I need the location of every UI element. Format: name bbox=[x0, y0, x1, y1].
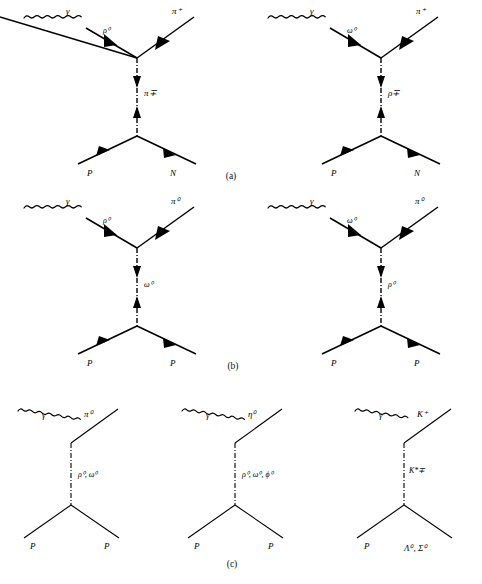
propagator-arrowhead-down bbox=[133, 266, 141, 278]
pion-out-arrowhead bbox=[399, 226, 414, 240]
photon-line bbox=[182, 409, 244, 419]
diagram-a-left: γ ρ⁰ π⁺ π∓ P N bbox=[0, 6, 196, 178]
label-baryon-out: Λ⁰, Σ⁰ bbox=[403, 543, 428, 553]
diagram-c-2: γ η⁰ ρ⁰, ω⁰, ϕ⁰ P P bbox=[182, 409, 283, 551]
label-rho0-vertex: ρ⁰ bbox=[102, 26, 112, 35]
label-exchange: π∓ bbox=[144, 88, 158, 98]
row-caption-c: (c) bbox=[227, 559, 238, 570]
label-rho0-vertex: ρ⁰ bbox=[102, 216, 112, 225]
label-gamma: γ bbox=[66, 6, 70, 16]
row-caption-a: (a) bbox=[226, 171, 237, 182]
propagator-arrowhead-up bbox=[133, 106, 141, 118]
baryon-out-line bbox=[404, 505, 452, 538]
feynman-diagram-figure: γ ρ⁰ π⁺ π∓ P N γ ω⁰ π⁺ ρ∓ P N (a) bbox=[0, 0, 482, 584]
proton-in-line bbox=[188, 505, 235, 538]
proton-in-arrowhead bbox=[96, 336, 110, 346]
label-proton-in: P bbox=[86, 358, 93, 368]
label-exchange: ω⁰ bbox=[144, 280, 155, 289]
label-omega0-vertex: ω⁰ bbox=[347, 26, 358, 35]
label-gamma: γ bbox=[66, 196, 70, 206]
propagator-arrowhead-up bbox=[377, 296, 385, 308]
propagator-arrowhead-up bbox=[377, 106, 385, 118]
label-meson-out: π⁰ bbox=[84, 409, 94, 419]
pion-out-arrowhead bbox=[155, 36, 170, 50]
pion-out-line bbox=[381, 17, 438, 58]
label-proton-in: P bbox=[193, 541, 200, 551]
propagator-arrowhead-down bbox=[133, 76, 141, 88]
pion-out-line bbox=[381, 207, 438, 248]
meson-out-line bbox=[235, 409, 282, 443]
diagram-c-1: γ π⁰ ρ⁰, ω⁰ P P bbox=[18, 409, 119, 551]
proton-out-line bbox=[71, 505, 119, 538]
diagram-a-right: γ ω⁰ π⁺ ρ∓ P N bbox=[268, 6, 440, 178]
rho0-arrowhead bbox=[104, 224, 117, 237]
proton-in-arrowhead bbox=[340, 146, 354, 156]
photon-line bbox=[268, 206, 325, 208]
label-exchange: ρ⁰ bbox=[387, 280, 397, 289]
label-pion-out: π⁰ bbox=[171, 196, 181, 206]
label-proton-in: P bbox=[363, 541, 370, 551]
photon-line bbox=[268, 16, 325, 18]
row-caption-b: (b) bbox=[227, 361, 238, 372]
label-proton-in: P bbox=[330, 168, 337, 178]
label-meson-out: η⁰ bbox=[248, 409, 257, 419]
pion-out-line-2 bbox=[137, 17, 194, 58]
figure-canvas: γ ρ⁰ π⁺ π∓ P N γ ω⁰ π⁺ ρ∓ P N (a) bbox=[0, 0, 482, 584]
label-proton-out: P bbox=[413, 358, 420, 368]
label-nucleon-out: N bbox=[169, 168, 177, 178]
label-proton-in: P bbox=[29, 541, 36, 551]
label-gamma: γ bbox=[42, 410, 46, 420]
photon-line bbox=[24, 206, 81, 208]
label-proton-in: P bbox=[86, 168, 93, 178]
pion-out-arrowhead bbox=[155, 226, 170, 240]
diagram-b-right: γ ω⁰ π⁰ ρ⁰ P P bbox=[268, 196, 440, 368]
label-proton-out: P bbox=[267, 541, 274, 551]
label-proton-out: P bbox=[169, 358, 176, 368]
label-meson-out: K⁺ bbox=[416, 409, 429, 419]
label-proton-out: P bbox=[103, 541, 110, 551]
proton-in-arrowhead bbox=[96, 146, 110, 156]
diagram-b-left: γ ρ⁰ π⁰ ω⁰ P P bbox=[24, 196, 196, 368]
label-gamma: γ bbox=[310, 6, 314, 16]
propagator-arrowhead-down bbox=[377, 266, 385, 278]
proton-in-arrowhead bbox=[340, 336, 354, 346]
label-proton-in: P bbox=[330, 358, 337, 368]
label-pion-out: π⁺ bbox=[172, 6, 183, 16]
propagator-arrowhead-down bbox=[377, 76, 385, 88]
pion-out-arrowhead bbox=[399, 36, 414, 50]
label-exchange: K*∓ bbox=[408, 466, 426, 475]
label-exchange: ρ∓ bbox=[387, 88, 401, 98]
diagram-c-3: γ K⁺ K*∓ P Λ⁰, Σ⁰ bbox=[355, 409, 452, 553]
label-omega0-vertex: ω⁰ bbox=[347, 216, 358, 225]
omega0-arrowhead bbox=[348, 34, 361, 47]
label-exchange: ρ⁰, ω⁰ bbox=[77, 470, 99, 479]
meson-out-line bbox=[71, 409, 118, 443]
proton-in-line bbox=[357, 505, 404, 538]
omega0-arrowhead bbox=[348, 224, 361, 237]
label-nucleon-out: N bbox=[413, 168, 421, 178]
photon-line bbox=[18, 409, 80, 419]
propagator-arrowhead-up bbox=[133, 296, 141, 308]
label-pion-out: π⁰ bbox=[415, 196, 425, 206]
proton-in-line bbox=[24, 505, 71, 538]
label-gamma: γ bbox=[310, 196, 314, 206]
label-gamma: γ bbox=[379, 410, 383, 420]
rho0-arrowhead bbox=[104, 34, 117, 47]
proton-out-line bbox=[235, 505, 283, 538]
photon-line bbox=[24, 16, 81, 18]
label-gamma: γ bbox=[206, 410, 210, 420]
pion-out-line bbox=[0, 17, 137, 58]
pion-out-line bbox=[137, 207, 194, 248]
label-pion-out: π⁺ bbox=[416, 6, 427, 16]
label-exchange: ρ⁰, ω⁰, ϕ⁰ bbox=[241, 470, 275, 479]
